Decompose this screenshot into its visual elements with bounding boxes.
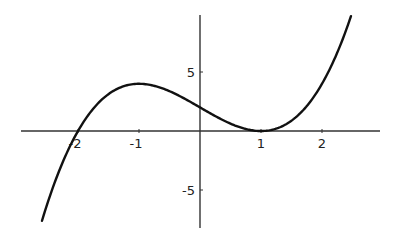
x-tick-label: -1 bbox=[130, 136, 143, 151]
x-ticks: -2-112 bbox=[69, 129, 327, 151]
function-curve bbox=[42, 16, 351, 221]
y-tick-label: 5 bbox=[187, 65, 195, 80]
x-tick-label: 2 bbox=[318, 136, 326, 151]
function-plot: -2-112 5-5 bbox=[0, 0, 397, 239]
x-tick-label: 1 bbox=[257, 136, 265, 151]
y-tick-label: -5 bbox=[182, 183, 195, 198]
